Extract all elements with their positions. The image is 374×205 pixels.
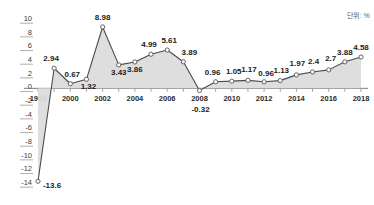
data-value-label: 2.7: [325, 54, 337, 63]
y-axis-tick-label: 6: [28, 41, 32, 50]
x-axis-tick-label: 2016: [320, 94, 337, 103]
data-value-label: 1.97: [290, 59, 306, 68]
data-value-label: -13.6: [43, 181, 62, 190]
data-value-label: -0.32: [191, 105, 210, 114]
data-point-marker: [214, 80, 218, 84]
data-value-label: 3.86: [127, 65, 143, 74]
x-axis-tick-label: 2014: [288, 94, 306, 103]
x-axis: 1998200020022004200620082010201220142016…: [24, 88, 369, 103]
y-axis-tick-label: -14: [21, 178, 32, 187]
data-point-marker: [197, 88, 201, 92]
data-value-label: 2.94: [43, 54, 59, 63]
data-point-marker: [52, 66, 56, 70]
data-value-label: 0.96: [205, 68, 221, 77]
data-value-label: 0.96: [258, 69, 274, 78]
data-value-label: 1.17: [241, 65, 257, 74]
data-point-marker: [133, 60, 137, 64]
x-axis-tick-label: 2018: [353, 94, 370, 103]
data-value-label: 5.61: [161, 36, 177, 45]
data-value-label: 8.98: [95, 13, 111, 22]
x-axis-tick-label: 2000: [62, 94, 79, 103]
x-axis-tick-label: 2002: [94, 94, 111, 103]
y-axis-tick-label: 4: [28, 55, 32, 64]
data-point-marker: [181, 60, 185, 64]
x-axis-tick-label: 2008: [191, 94, 208, 103]
data-point-marker: [294, 73, 298, 77]
y-axis-tick-label: 2: [28, 69, 32, 78]
data-point-marker: [310, 70, 314, 74]
data-value-label: 4.58: [353, 43, 369, 52]
y-axis-tick-label: -10: [21, 151, 32, 160]
data-value-label: 3.88: [337, 48, 353, 57]
data-point-marker: [343, 60, 347, 64]
data-point-marker: [262, 80, 266, 84]
data-value-label: 2.4: [308, 57, 320, 66]
data-value-label: 3.89: [182, 48, 198, 57]
data-point-marker: [165, 48, 169, 52]
y-axis-tick-label: 10: [24, 14, 32, 23]
data-value-label: 1.32: [81, 82, 97, 91]
data-point-marker: [359, 55, 363, 59]
x-axis-tick-label: 2012: [256, 94, 273, 103]
x-axis-tick-label: 2006: [159, 94, 176, 103]
x-axis-tick-label: 2010: [223, 94, 240, 103]
data-point-marker: [68, 82, 72, 86]
chart-container: 단위: % 1086420-2-4-6-8-10-12-14 199820002…: [0, 0, 374, 205]
y-axis-tick-label: -6: [25, 123, 32, 132]
data-point-marker: [36, 179, 40, 183]
data-value-label: 1.13: [273, 66, 289, 75]
data-point-marker: [117, 63, 121, 67]
data-point-marker: [101, 25, 105, 29]
data-point-marker: [230, 79, 234, 83]
y-axis-tick-label: 0: [28, 82, 32, 91]
x-axis-tick-label: 2004: [127, 94, 145, 103]
y-axis-tick-label: -8: [25, 137, 32, 146]
data-point-marker: [246, 78, 250, 82]
data-point-marker: [278, 79, 282, 83]
line-area-chart: 1086420-2-4-6-8-10-12-14 199820002002200…: [0, 0, 374, 205]
data-point-marker: [84, 77, 88, 81]
data-point-marker: [327, 68, 331, 72]
y-axis-tick-label: 8: [28, 28, 32, 37]
y-axis-tick-label: -4: [25, 110, 32, 119]
data-value-label: 4.99: [141, 40, 157, 49]
y-axis-tick-label: -12: [21, 164, 32, 173]
data-point-marker: [149, 52, 153, 56]
data-value-label: 1.05: [226, 67, 242, 76]
data-value-label: 3.43: [111, 68, 127, 77]
data-value-label: 0.67: [65, 70, 81, 79]
